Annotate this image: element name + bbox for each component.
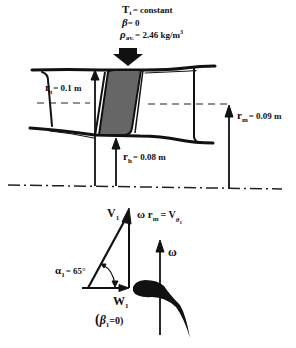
axis-centerline: [8, 185, 282, 189]
outlet-vane-edge: [194, 67, 200, 143]
rm-label: rm= 0.09 m: [237, 109, 282, 124]
tt-label: Tt= constant: [122, 3, 173, 17]
blade-speed-label: ω rm= Vθ1: [137, 208, 182, 225]
operating-conditions: Tt= constant β= 0 ρav.= 2.46 kg/m3: [119, 3, 183, 42]
rotor-blade: [95, 70, 143, 136]
rh-label: rh= 0.08 m: [123, 150, 166, 165]
beta-label: β= 0: [121, 16, 140, 28]
beta1-label: (β1=0): [95, 312, 123, 329]
rho-label: ρav.= 2.46 kg/m3: [119, 28, 183, 42]
omega-label: ω: [168, 245, 177, 259]
velocity-triangle: [82, 208, 131, 292]
blade-profile: [133, 280, 190, 338]
v1-label: V1: [107, 206, 120, 222]
turbine-stage-diagram: Tt= constant β= 0 ρav.= 2.46 kg/m3: [0, 0, 296, 348]
alpha1-label: α1= 65°: [55, 264, 86, 279]
w1-label: W1: [113, 294, 129, 310]
rt-label: rt= 0.1 m: [45, 81, 82, 96]
flow-direction-arrow: [113, 48, 143, 66]
